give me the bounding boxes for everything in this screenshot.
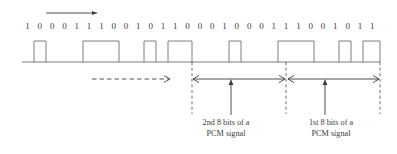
bit-label: 0 [307,22,314,31]
double-headed-arrow-icon-second-frame [193,75,285,82]
bit-label: 1 [73,22,80,31]
bit-label: 1 [98,22,105,31]
bit-sequence-row: 1 0 0 0 1 1 1 0 0 1 0 1 1 0 0 0 1 0 0 0 … [24,19,376,34]
bit-label: 0 [320,22,327,31]
bit-label: 1 [270,22,277,31]
bit-label: 1 [356,22,363,31]
first-frame-caption-line2: PCM signal [290,129,372,140]
up-arrow-pointer-icon-second [229,79,234,115]
second-frame-caption-line2: PCM signal [185,129,267,140]
bit-label: 1 [159,22,166,31]
up-arrow-pointer-icon-first [323,79,328,115]
bit-label: 0 [344,22,351,31]
second-frame-caption-line1: 2nd 8 bits of a [185,118,267,129]
bit-label: 1 [295,22,302,31]
dashed-arrow-right-icon [92,76,170,83]
bit-label: 0 [49,22,56,31]
bit-label: 0 [258,22,265,31]
bit-label: 1 [24,22,31,31]
bit-label: 1 [135,22,142,31]
first-frame-caption: 1st 8 bits of a PCM signal [290,118,372,139]
bit-label: 0 [61,22,68,31]
bit-label: 1 [221,22,228,31]
bit-label: 0 [123,22,130,31]
bit-label: 0 [233,22,240,31]
bit-label: 0 [147,22,154,31]
pcm-pulse-train [22,41,380,62]
bit-label: 0 [209,22,216,31]
bit-label: 0 [196,22,203,31]
bit-label: 1 [369,22,376,31]
bit-label: 0 [36,22,43,31]
second-frame-caption: 2nd 8 bits of a PCM signal [185,118,267,139]
bit-label: 1 [172,22,179,31]
bit-label: 1 [283,22,290,31]
bit-label: 1 [332,22,339,31]
first-frame-caption-line1: 1st 8 bits of a [290,118,372,129]
frame-boundary-markers [192,62,380,114]
pcm-framing-figure: 1 0 0 0 1 1 1 0 0 1 0 1 1 0 0 0 1 0 0 0 … [0,0,397,154]
bit-label: 0 [110,22,117,31]
solid-arrow-right-icon [46,11,97,15]
double-headed-arrow-icon-first-frame [288,75,379,82]
bit-label: 1 [86,22,93,31]
bit-label: 0 [184,22,191,31]
bit-label: 0 [246,22,253,31]
